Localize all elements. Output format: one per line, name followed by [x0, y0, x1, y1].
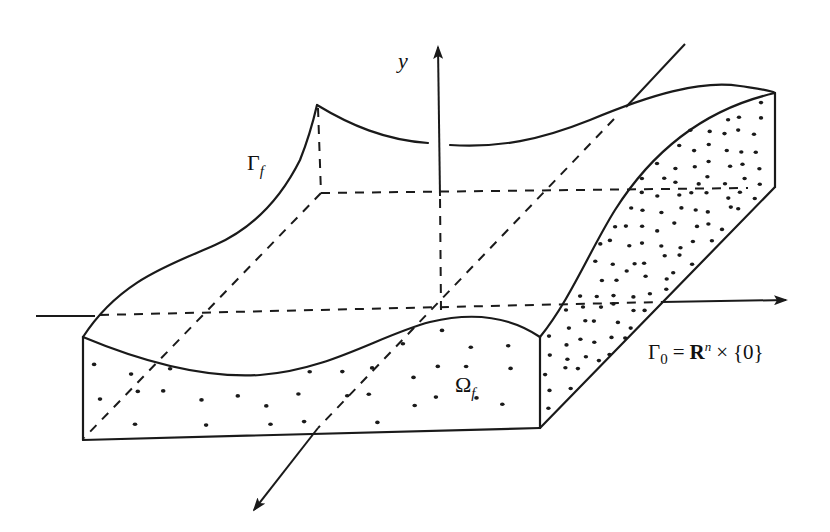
stipple-dot: [659, 244, 663, 248]
depth-axis-arrow: [254, 428, 318, 510]
stipple-dot: [759, 116, 763, 120]
stipple-dot: [563, 366, 567, 370]
stipple-dot: [659, 211, 663, 215]
stipple-dot: [569, 387, 573, 391]
stipple-dot: [708, 130, 712, 134]
stipple-dot: [758, 183, 762, 187]
stipple-dot: [632, 262, 636, 266]
stipple-dot: [631, 295, 635, 299]
stipple-dot: [690, 262, 694, 266]
stipple-dot: [581, 305, 585, 309]
stipple-dot: [648, 292, 652, 296]
stipple-dot: [508, 367, 513, 371]
stipple-dot: [592, 340, 596, 344]
y-axis-arrow: [438, 47, 440, 196]
stipple-dot: [642, 309, 646, 313]
stipple-dot: [412, 404, 417, 408]
stipple-dot: [640, 177, 644, 181]
stipple-dot: [567, 326, 571, 330]
stipple-dot: [736, 128, 740, 132]
stipple-dot: [506, 344, 511, 348]
stipple-dot: [401, 342, 406, 346]
stipple-dot: [673, 180, 677, 184]
stipple-dot: [752, 133, 756, 137]
stipple-dot: [268, 422, 273, 426]
stipple-dot: [614, 278, 618, 282]
stipple-dot: [629, 206, 633, 210]
stipple-dot: [307, 370, 312, 374]
stipple-dot: [129, 372, 134, 376]
stipple-dot: [722, 132, 726, 136]
stipple-dot: [739, 150, 743, 154]
front-face-stipple: [92, 329, 513, 427]
stipple-dot: [738, 190, 742, 194]
stipple-dot: [608, 239, 612, 243]
stipple-dot: [548, 353, 552, 357]
stipple-dot: [704, 191, 708, 195]
stipple-dot: [640, 191, 644, 195]
stipple-dot: [436, 365, 441, 369]
stipple-dot: [583, 319, 587, 323]
stipple-dot: [710, 239, 714, 243]
stipple-dot: [692, 149, 696, 153]
stipple-dot: [631, 309, 635, 313]
gamma-0-times: ×: [716, 340, 728, 364]
stipple-dot: [726, 118, 730, 122]
stipple-dot: [375, 421, 380, 425]
y-axis-hidden-segment: [440, 196, 441, 310]
omega-f-symbol: Ω: [455, 372, 471, 397]
gamma-0-symbol: Γ: [648, 340, 660, 364]
stipple-dot: [642, 261, 646, 265]
stipple-dot: [264, 404, 269, 408]
stipple-dot: [168, 367, 173, 371]
stipple-dot: [665, 277, 669, 281]
y-axis-label: y: [396, 48, 408, 73]
stipple-dot: [723, 182, 727, 186]
stipple-dot: [689, 191, 693, 195]
stipple-dot: [367, 393, 372, 397]
stipple-dot: [664, 288, 668, 292]
stipple-dot: [757, 167, 761, 171]
stipple-dot: [469, 345, 474, 349]
domain-diagram: y Γf Ωf Γ0=Rn×{0}: [0, 0, 830, 532]
gamma-f-label: Γf: [247, 150, 266, 179]
stipple-dot: [411, 376, 416, 380]
stipple-dot: [695, 225, 699, 229]
stipple-dot: [434, 395, 439, 399]
stipple-dot: [706, 160, 710, 164]
stipple-dot: [679, 206, 683, 210]
front-face-bottom-edge: [83, 428, 540, 440]
stipple-dot: [576, 367, 580, 371]
gamma-0-R: R: [689, 340, 705, 364]
stipple-dot: [754, 151, 758, 155]
stipple-dot: [663, 254, 667, 258]
stipple-dot: [726, 196, 730, 200]
gamma-0-set: {0}: [733, 340, 764, 364]
stipple-dot: [759, 101, 763, 105]
stipple-dot: [706, 222, 710, 226]
gamma-f-subscript: f: [260, 163, 266, 179]
stipple-dot: [161, 389, 166, 393]
stipple-dot: [625, 269, 629, 273]
stipple-dot: [597, 359, 601, 363]
stipple-dot: [92, 363, 97, 367]
omega-f-label: Ωf: [455, 372, 477, 401]
stipple-dot: [742, 177, 746, 181]
back-bottom-edge: [321, 188, 748, 193]
gamma-0-subscript: 0: [660, 351, 668, 367]
stipple-dot: [736, 207, 740, 211]
stipple-dot: [640, 241, 644, 245]
stipple-dot: [592, 319, 596, 323]
gamma-0-equals: =: [673, 340, 685, 364]
stipple-dot: [564, 343, 568, 347]
stipple-dot: [655, 162, 659, 166]
stipple-dot: [678, 246, 682, 250]
stipple-dot: [464, 365, 469, 369]
stipple-dot: [705, 175, 709, 179]
stipple-dot: [677, 253, 681, 257]
stipple-dot: [547, 334, 551, 338]
stipple-dot: [720, 228, 724, 232]
stipple-dot: [629, 326, 633, 330]
stipple-dot: [627, 244, 631, 248]
stipple-dot: [624, 224, 628, 228]
